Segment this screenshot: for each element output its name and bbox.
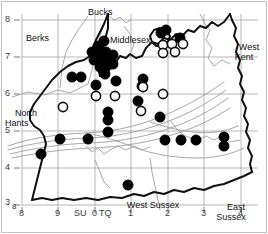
x-tick-1: 1 — [128, 209, 133, 218]
distribution-map-figure: 8 7 6 5 4 3 8 9 0 1 2 3 4 SU TQ Bucks Be… — [0, 0, 268, 234]
map-canvas — [0, 0, 268, 234]
y-tick-3: 3 — [5, 198, 10, 207]
x-tick-0: 0 — [92, 209, 97, 218]
y-tick-5: 5 — [5, 126, 10, 135]
corner-tick-8: 8 — [12, 203, 16, 211]
y-tick-6: 6 — [5, 89, 10, 98]
grid-square-su: SU — [74, 209, 87, 218]
x-tick-8: 8 — [19, 209, 24, 218]
x-tick-3: 3 — [201, 209, 206, 218]
x-tick-4: 4 — [238, 209, 243, 218]
grid-square-tq: TQ — [99, 209, 112, 218]
y-tick-8: 8 — [5, 15, 10, 24]
x-tick-2: 2 — [165, 209, 170, 218]
y-tick-4: 4 — [5, 163, 10, 172]
x-tick-9: 9 — [55, 209, 60, 218]
y-tick-7: 7 — [5, 52, 10, 61]
